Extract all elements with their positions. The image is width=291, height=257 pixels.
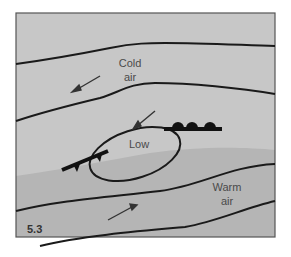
- cold-air-label-line2: air: [124, 71, 137, 83]
- cold-air-label-line1: Cold: [119, 57, 142, 69]
- figure-number: 5.3: [27, 223, 42, 235]
- warm-air-label-line2: air: [221, 195, 234, 207]
- low-label: Low: [129, 138, 149, 150]
- weather-front-diagram: Cold air Low Warm air 5.3: [0, 0, 291, 257]
- warm-air-label-line1: Warm: [213, 181, 242, 193]
